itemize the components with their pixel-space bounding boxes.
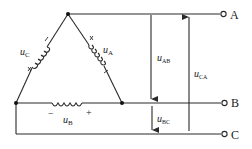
phase-c-winding bbox=[16, 14, 68, 103]
node-left bbox=[14, 101, 18, 105]
terminal-b-label: B bbox=[231, 96, 239, 110]
label-uab: uAB bbox=[157, 52, 170, 64]
label-uca: uCA bbox=[194, 68, 208, 80]
node-right bbox=[120, 101, 124, 105]
delta-circuit-diagram: uC uA uB − + uAB uBC uCA A B C bbox=[0, 0, 252, 149]
node-top bbox=[66, 12, 70, 16]
polarity-marks bbox=[28, 36, 108, 73]
label-ubc: uBC bbox=[157, 113, 170, 125]
phase-b-minus: − bbox=[48, 108, 54, 119]
label-uc: uC bbox=[20, 46, 30, 59]
terminal-c-label: C bbox=[231, 128, 239, 142]
terminal-c-circle[interactable] bbox=[222, 131, 227, 136]
terminal-a-circle[interactable] bbox=[221, 11, 226, 16]
phase-a-winding bbox=[68, 14, 122, 103]
label-ua: uA bbox=[103, 44, 113, 57]
label-ub: uB bbox=[63, 114, 73, 127]
phase-b-winding bbox=[16, 103, 122, 106]
phase-b-plus: + bbox=[86, 107, 92, 118]
terminal-a-label: A bbox=[230, 8, 239, 22]
terminal-b-circle[interactable] bbox=[222, 100, 227, 105]
